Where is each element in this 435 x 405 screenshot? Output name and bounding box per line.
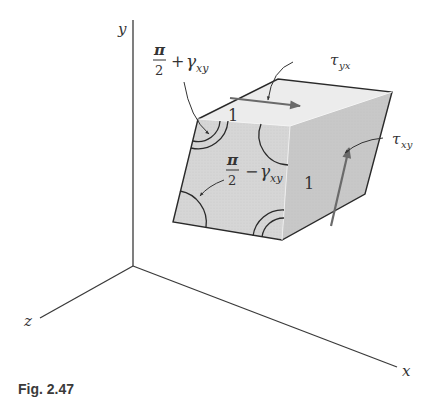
angle-label-plus: π 2 + γ xy [153,41,209,78]
svg-text:2: 2 [228,173,236,188]
shear-strain-diagram: y z x 1 1 [0,0,435,405]
z-axis [40,266,133,318]
x-axis-label: x [402,362,411,380]
svg-text:+: + [171,52,184,71]
svg-text:xy: xy [401,139,413,150]
top-edge-length: 1 [228,106,238,125]
svg-text:π: π [153,41,166,59]
figure-caption: Fig. 2.47 [18,381,74,397]
svg-text:τ: τ [330,51,339,69]
tau-xy-label: τ xy [392,130,413,150]
svg-text:xy: xy [196,62,209,75]
svg-text:τ: τ [392,130,401,148]
svg-text:−: − [245,162,258,181]
tau-yx-label: τ yx [330,51,351,71]
z-axis-label: z [23,312,32,330]
deformed-element: 1 1 [173,79,392,240]
side-edge-length: 1 [304,174,314,193]
x-axis [133,266,397,367]
svg-text:yx: yx [338,60,351,71]
svg-text:π: π [226,151,239,169]
svg-text:xy: xy [270,172,283,185]
svg-text:2: 2 [155,63,163,78]
y-axis-label: y [117,20,127,38]
